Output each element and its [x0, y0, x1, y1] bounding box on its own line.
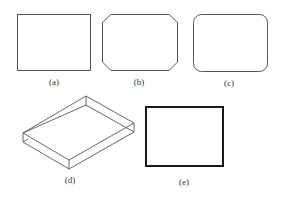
diagram-canvas [0, 0, 282, 205]
chamfered-rectangle-shape-b [103, 15, 178, 71]
rounded-rectangle-shape-c [194, 15, 268, 72]
3d-box-shape-d [23, 96, 134, 169]
label-a: (a) [49, 77, 59, 87]
label-c: (c) [224, 78, 234, 88]
rectangle-shape-a [18, 15, 91, 71]
label-e: (e) [179, 177, 189, 187]
label-b: (b) [134, 77, 145, 87]
thick-rectangle-shape-e [146, 107, 223, 166]
label-d: (d) [65, 175, 76, 185]
